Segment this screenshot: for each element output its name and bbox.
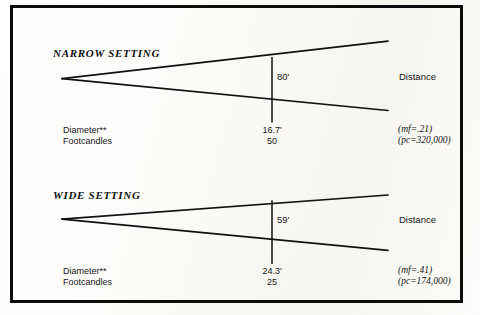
narrow-distance-label: Distance [399, 71, 436, 82]
figure-page: NARROW SETTING 80' Distance Diameter** F… [0, 0, 480, 315]
wide-beam-spread-label: 59' [277, 214, 289, 225]
wide-distance-label: Distance [399, 214, 436, 225]
narrow-diameter-row-label: Diameter** [63, 125, 107, 137]
narrow-beam-spread-label: 80' [277, 71, 289, 82]
wide-multiplying-factor-note: (mf=.41) [398, 265, 432, 277]
wide-peak-candlepower-note: (pc=174,000) [398, 276, 451, 288]
narrow-diameter-value: 16.7' [242, 125, 302, 137]
wide-diameter-row-label: Diameter** [63, 266, 107, 278]
wide-footcandles-value: 25 [242, 277, 302, 289]
wide-setting-section: WIDE SETTING 59' Distance Diameter** Foo… [0, 141, 480, 315]
wide-diameter-value: 24.3' [242, 266, 302, 278]
narrow-multiplying-factor-note: (mf=.21) [398, 124, 432, 136]
wide-footcandles-row-label: Footcandles [63, 277, 112, 289]
wide-setting-title: WIDE SETTING [53, 189, 141, 201]
narrow-setting-section: NARROW SETTING 80' Distance Diameter** F… [0, 0, 480, 160]
narrow-setting-title: NARROW SETTING [53, 47, 160, 59]
